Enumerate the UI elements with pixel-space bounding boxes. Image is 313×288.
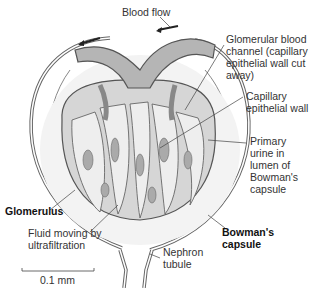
label-blood-flow: Blood flow (122, 6, 170, 18)
label-fluid-ultrafiltration: Fluid moving by ultrafiltration (28, 227, 102, 251)
label-capillary-wall: Capillary epithelial wall (246, 90, 308, 114)
label-glomerulus: Glomerulus (5, 205, 63, 217)
label-scale: 0.1 mm (40, 274, 75, 286)
label-glomerular-channel: Glomerular blood channel (capillary epit… (226, 33, 308, 81)
label-nephron-tubule: Nephron tubule (163, 246, 203, 270)
scale-bar (22, 268, 94, 271)
label-primary-urine: Primary urine in lumen of Bowman's capsu… (250, 135, 298, 195)
label-bowmans-capsule: Bowman's capsule (222, 226, 274, 250)
